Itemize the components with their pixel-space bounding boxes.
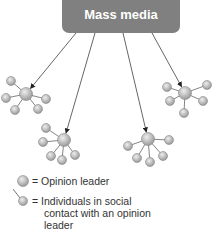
individual-node [124, 142, 133, 151]
individual-node [146, 158, 155, 167]
legend-individuals-label-line1: = Individuals in social [32, 195, 132, 207]
individual-node [203, 81, 212, 90]
individual-node [133, 154, 142, 163]
legend-opinion-leader-label: = Opinion leader [32, 175, 109, 187]
individual-node [165, 136, 174, 145]
arrow-cluster-right [152, 33, 182, 87]
mass-media-box: Mass media [62, 0, 180, 33]
individual-node [180, 109, 189, 118]
legend-individuals-label-line3: leader [44, 219, 73, 231]
arrow-cluster-mid-left [66, 33, 95, 133]
individual-node [47, 152, 56, 161]
opinion-leader-node [142, 133, 155, 146]
arrow-cluster-left [30, 33, 76, 89]
social-contact-edges [6, 81, 207, 162]
legend-contact-line-icon [13, 189, 20, 198]
opinion-leader-node [58, 134, 71, 147]
individual-node [166, 97, 175, 106]
individual-node [7, 77, 16, 86]
individual-node [71, 151, 80, 160]
individual-node [199, 97, 208, 106]
legend-individuals-label-line2: contact with an opinion [44, 207, 151, 219]
opinion-leader-node [20, 88, 33, 101]
individual-node [42, 124, 51, 133]
individual-node [163, 83, 172, 92]
individual-node [2, 94, 11, 103]
arrow-cluster-mid-right [123, 33, 146, 132]
mass-media-label: Mass media [84, 7, 158, 22]
individual-node [58, 156, 67, 165]
legend-opinion-leader-icon [18, 176, 29, 187]
opinion-leader-node [179, 87, 192, 100]
legend-individual-icon [19, 197, 28, 206]
network-nodes [2, 77, 212, 167]
individual-node [39, 138, 48, 147]
individual-node [34, 105, 43, 114]
influence-arrows [30, 33, 181, 133]
individual-node [42, 95, 51, 104]
individual-node [159, 152, 168, 161]
legend-symbols [13, 176, 29, 206]
individual-node [11, 106, 20, 115]
